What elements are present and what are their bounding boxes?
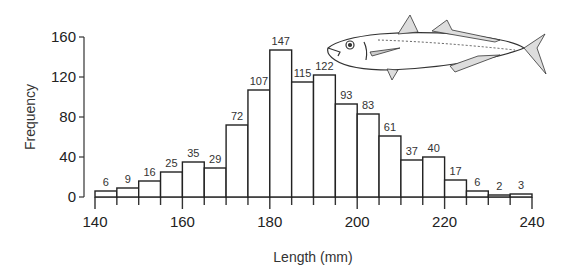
histogram-bar	[357, 114, 379, 197]
histogram-bar	[401, 160, 423, 197]
histogram-bar	[314, 75, 336, 197]
y-tick-label: 80	[59, 108, 76, 125]
y-tick-label: 40	[59, 148, 76, 165]
y-tick-label: 0	[68, 188, 76, 205]
histogram-bar	[488, 195, 510, 197]
bar-value-label: 61	[384, 121, 396, 133]
x-tick-label: 240	[519, 213, 544, 230]
histogram-bar	[139, 181, 161, 197]
y-axis-title: Frequency	[22, 84, 38, 150]
bar-value-label: 147	[272, 35, 290, 47]
bar-value-label: 2	[496, 180, 502, 192]
histogram-bar	[423, 157, 445, 197]
histogram-bar	[445, 180, 467, 197]
bar-value-label: 122	[315, 60, 333, 72]
histogram-bar	[466, 191, 488, 197]
x-tick-label: 140	[82, 213, 107, 230]
x-tick-label: 220	[432, 213, 457, 230]
y-tick-label: 160	[51, 28, 76, 45]
bar-value-label: 9	[125, 173, 131, 185]
y-tick-label: 120	[51, 68, 76, 85]
bar-value-label: 6	[474, 176, 480, 188]
fish-illustration-icon	[328, 15, 546, 80]
x-tick-label: 200	[345, 213, 370, 230]
x-tick-label: 160	[170, 213, 195, 230]
bar-value-label: 40	[428, 142, 440, 154]
y-axis: 04080120160	[51, 28, 84, 205]
histogram-bar	[335, 104, 357, 197]
bar-value-label: 3	[518, 179, 524, 191]
histogram-bar	[226, 125, 248, 197]
bar-value-label: 16	[144, 166, 156, 178]
bar-value-label: 115	[294, 67, 312, 79]
bar-value-label: 93	[340, 89, 352, 101]
histogram-bar	[117, 188, 139, 197]
bar-value-label: 37	[406, 145, 418, 157]
x-tick-label: 180	[257, 213, 282, 230]
histogram-chart: 04080120160 140160180200220240 691625352…	[0, 0, 569, 273]
histogram-bar	[248, 90, 270, 197]
bar-value-label: 17	[449, 165, 461, 177]
x-axis: 140160180200220240	[82, 197, 544, 230]
histogram-bar	[95, 191, 117, 197]
histogram-bar	[204, 168, 226, 197]
histogram-bar	[182, 162, 204, 197]
histogram-bar	[379, 136, 401, 197]
bar-value-label: 29	[209, 153, 221, 165]
bar-value-label: 35	[187, 147, 199, 159]
histogram-bar	[292, 82, 314, 197]
bar-value-label: 25	[165, 157, 177, 169]
histogram-bar	[161, 172, 183, 197]
bar-value-label: 107	[250, 75, 268, 87]
histogram-bar	[510, 194, 532, 197]
bar-value-label: 83	[362, 99, 374, 111]
bar-value-label: 6	[103, 176, 109, 188]
x-axis-title: Length (mm)	[273, 249, 352, 265]
histogram-bar	[270, 50, 292, 197]
bar-value-label: 72	[231, 110, 243, 122]
